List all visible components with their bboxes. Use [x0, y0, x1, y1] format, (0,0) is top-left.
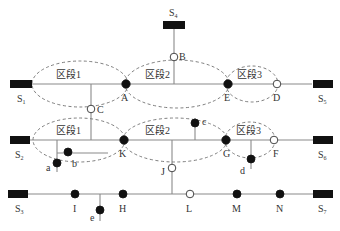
source-label-s6: S6	[318, 149, 327, 161]
switch-f-open	[270, 136, 278, 144]
switch-d-open	[273, 80, 281, 88]
source-label-s5: S5	[318, 93, 327, 105]
node-label-c: C	[97, 104, 104, 115]
switch-n-closed	[276, 190, 284, 198]
switch-d-branch-closed	[247, 155, 255, 163]
node-label-h: H	[119, 203, 126, 214]
switch-m-closed	[233, 190, 241, 198]
switch-b-open	[170, 53, 178, 61]
switch-k-closed	[120, 136, 128, 144]
switch-j-open	[168, 164, 176, 172]
switch-e-branch-closed	[96, 206, 104, 214]
node-label-d-branch: d	[240, 165, 245, 176]
source-labels: S1 S2 S3 S4 S5 S6 S7	[15, 7, 327, 215]
source-label-s3: S3	[15, 203, 24, 215]
node-label-n: N	[276, 203, 283, 214]
source-s3	[8, 190, 28, 198]
source-s1	[10, 80, 32, 88]
switch-c-open	[87, 105, 95, 113]
source-s2	[10, 136, 30, 144]
node-label-k: K	[119, 148, 127, 159]
switch-c-branch-closed	[191, 119, 199, 127]
node-label-b-branch: b	[72, 158, 77, 169]
switch-b-branch-closed	[64, 148, 72, 156]
source-label-s2: S2	[15, 149, 24, 161]
source-s6	[313, 136, 333, 144]
section-label-row1-3: 区段3	[237, 68, 262, 80]
distribution-network-diagram: 区段1 区段2 区段3 区段1 区段2 区段3 S1 S2 S3 S4 S5 S…	[0, 0, 340, 231]
node-label-d: D	[273, 92, 280, 103]
switch-a-branch-closed	[53, 159, 61, 167]
node-label-b: B	[179, 51, 186, 62]
node-label-a: A	[121, 92, 129, 103]
section-label-row1-2: 区段2	[145, 68, 170, 80]
node-label-f: F	[273, 148, 279, 159]
source-label-s4: S4	[169, 7, 178, 19]
node-label-g: G	[223, 148, 230, 159]
section-label-row2-1: 区段1	[56, 124, 81, 136]
switch-a-closed	[122, 80, 130, 88]
switch-e-closed	[224, 80, 232, 88]
node-label-c-branch: c	[202, 116, 207, 127]
section-label-row2-3: 区段3	[236, 124, 261, 136]
switch-g-closed	[222, 136, 230, 144]
switch-i-closed	[71, 190, 79, 198]
node-label-i: I	[73, 203, 76, 214]
switch-l-open	[186, 190, 194, 198]
section-label-row1-1: 区段1	[56, 68, 81, 80]
source-s4	[163, 21, 185, 29]
source-label-s1: S1	[17, 93, 26, 105]
node-label-l: L	[186, 203, 192, 214]
node-label-m: M	[232, 203, 241, 214]
node-label-e-branch: e	[90, 212, 95, 223]
section-labels: 区段1 区段2 区段3 区段1 区段2 区段3	[56, 68, 262, 136]
source-s7	[313, 190, 333, 198]
node-label-e: E	[224, 92, 230, 103]
switch-h-closed	[119, 190, 127, 198]
section-label-row2-2: 区段2	[145, 124, 170, 136]
source-s5	[313, 80, 333, 88]
node-label-a-branch: a	[46, 162, 51, 173]
node-label-j: J	[161, 166, 165, 177]
source-label-s7: S7	[318, 203, 327, 215]
